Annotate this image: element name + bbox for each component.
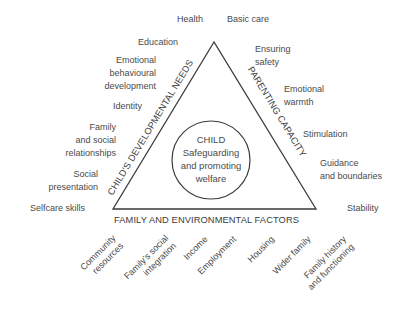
label-line: Emotional xyxy=(284,83,324,96)
label-line: safety xyxy=(255,56,291,69)
label-line: Social xyxy=(48,168,98,181)
label-line: Ensuring xyxy=(255,43,291,56)
parenting-basic-care: Basic care xyxy=(227,13,269,26)
parenting-stimulation: Stimulation xyxy=(303,128,348,141)
label-line: Identity xyxy=(113,100,142,113)
parenting-ensuring-safety: Ensuring safety xyxy=(255,43,291,69)
label-line: and boundaries xyxy=(320,170,382,183)
side-label-environmental-factors: FAMILY AND ENVIRONMENTAL FACTORS xyxy=(114,215,299,225)
label-line: behavioural xyxy=(104,67,156,80)
parenting-stability: Stability xyxy=(347,202,379,215)
need-family-social-relationships: Family and social relationships xyxy=(65,121,116,160)
need-selfcare-skills: Selfcare skills xyxy=(30,202,85,215)
center-line: Safeguarding xyxy=(171,146,251,159)
label-line: Stability xyxy=(347,202,379,215)
label-line: relationships xyxy=(65,147,116,160)
label-line: and social xyxy=(65,134,116,147)
parenting-guidance-boundaries: Guidance and boundaries xyxy=(320,157,382,183)
need-education: Education xyxy=(138,36,178,49)
label-line: Family xyxy=(65,121,116,134)
label-line: presentation xyxy=(48,181,98,194)
need-social-presentation: Social presentation xyxy=(48,168,98,194)
parenting-emotional-warmth: Emotional warmth xyxy=(284,83,324,109)
label-line: Selfcare skills xyxy=(30,202,85,215)
need-identity: Identity xyxy=(113,100,142,113)
label-line: Emotional xyxy=(104,54,156,67)
label-line: warmth xyxy=(284,96,324,109)
label-line: Stimulation xyxy=(303,128,348,141)
label-line: Basic care xyxy=(227,13,269,26)
need-health: Health xyxy=(177,13,203,26)
center-text: CHILD Safeguarding and promoting welfare xyxy=(171,133,251,185)
label-line: Guidance xyxy=(320,157,382,170)
center-line: and promoting xyxy=(171,159,251,172)
label-line: Health xyxy=(177,13,203,26)
label-line: Education xyxy=(138,36,178,49)
label-line: development xyxy=(104,80,156,93)
center-line: CHILD xyxy=(171,133,251,146)
need-emotional-behavioural-development: Emotional behavioural development xyxy=(104,54,156,93)
center-line: welfare xyxy=(171,172,251,185)
